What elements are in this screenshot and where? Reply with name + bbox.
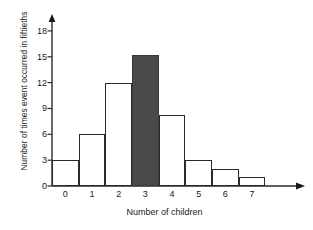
y-tick-label: 12 bbox=[37, 78, 47, 87]
bar bbox=[185, 160, 212, 186]
x-tick-label: 2 bbox=[116, 190, 121, 199]
histogram-chart: Number of times event occurred in fiftie… bbox=[0, 0, 313, 230]
y-tick-label: 9 bbox=[42, 104, 47, 113]
bar-series bbox=[52, 18, 292, 186]
y-tick-label: 18 bbox=[37, 26, 47, 35]
bar bbox=[132, 55, 159, 186]
y-tick-label: 3 bbox=[42, 156, 47, 165]
bar bbox=[239, 177, 266, 186]
x-tick-label: 4 bbox=[169, 190, 174, 199]
y-tick-label: 15 bbox=[37, 52, 47, 61]
x-axis-title: Number of children bbox=[47, 207, 282, 217]
x-tick-label: 1 bbox=[89, 190, 94, 199]
x-tick-label: 6 bbox=[223, 190, 228, 199]
x-axis-arrowhead bbox=[296, 182, 305, 189]
x-tick-label: 7 bbox=[249, 190, 254, 199]
bar bbox=[79, 134, 106, 186]
y-tick-label: 6 bbox=[42, 130, 47, 139]
x-tick-label: 0 bbox=[63, 190, 68, 199]
bar bbox=[212, 169, 239, 186]
bar bbox=[159, 115, 186, 187]
x-tick-label: 3 bbox=[143, 190, 148, 199]
y-axis-title: Number of times event occurred in fiftie… bbox=[19, 1, 29, 181]
plot-area: 0369121518 01234567 bbox=[52, 18, 292, 186]
bar bbox=[52, 160, 79, 186]
x-tick-label: 5 bbox=[196, 190, 201, 199]
y-tick-label: 0 bbox=[42, 182, 47, 191]
bar bbox=[105, 83, 132, 186]
